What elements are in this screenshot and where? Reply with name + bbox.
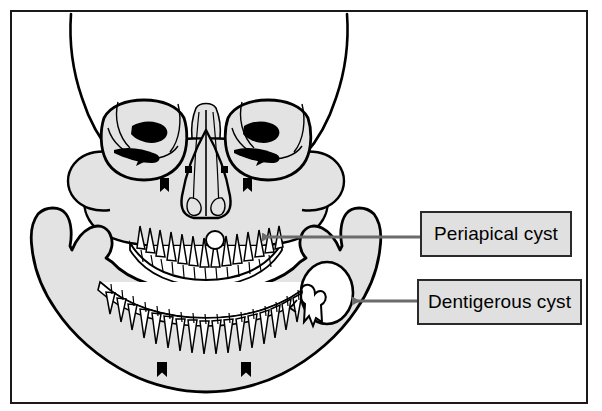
- foramen-mark: [221, 166, 228, 173]
- periapical-cyst-lesion: [206, 231, 224, 249]
- callout-label-dentigerous-cyst: Dentigerous cyst: [428, 291, 571, 313]
- left-orbit: [101, 100, 187, 180]
- illustration-root: Periapical cyst Dentigerous cyst: [0, 0, 602, 411]
- callout-box-periapical-cyst[interactable]: Periapical cyst: [420, 211, 572, 257]
- skull-diagram: [0, 0, 602, 411]
- impacted-molar: [301, 285, 326, 326]
- right-orbit: [225, 100, 311, 180]
- callout-box-dentigerous-cyst[interactable]: Dentigerous cyst: [417, 279, 582, 325]
- callout-label-periapical-cyst: Periapical cyst: [434, 223, 558, 245]
- foramen-mark: [185, 166, 192, 173]
